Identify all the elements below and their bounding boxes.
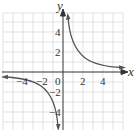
left-branch-curve — [4, 77, 58, 128]
y-tick-m4: −4 — [49, 106, 61, 118]
x-tick-4: 4 — [100, 75, 106, 87]
arrow-up-icon — [66, 13, 71, 20]
x-tick-2: 2 — [80, 75, 86, 87]
y-axis-label: y — [55, 0, 63, 13]
x-axis-arrow-icon — [121, 70, 128, 75]
arrow-down-icon — [56, 124, 61, 130]
x-tick-m4: −4 — [16, 75, 28, 87]
y-tick-2: 2 — [55, 46, 61, 58]
x-tick-m2: −2 — [36, 75, 48, 87]
x-axis-label: x — [127, 64, 134, 79]
arrow-right-icon — [119, 65, 126, 70]
y-tick-4: 4 — [55, 26, 61, 38]
y-tick-m2: −2 — [49, 86, 61, 98]
chart: x y −4 −2 0 2 4 4 2 −2 −4 — [0, 0, 134, 130]
arrow-left-icon — [1, 75, 8, 80]
